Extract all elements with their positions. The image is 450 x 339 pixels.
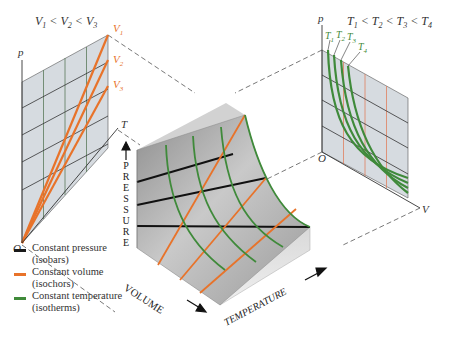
isobar-swatch: [14, 249, 26, 252]
label-t1: T1: [325, 30, 334, 44]
legend-item-isotherms: Constant temperature(isotherms): [14, 290, 122, 314]
isochor-swatch: [14, 273, 26, 276]
legend-label: Constant temperature: [32, 290, 122, 302]
legend-sublabel: (isobars): [32, 254, 107, 266]
left-axis-p-label: p: [18, 46, 24, 58]
left-pt-panel: [22, 35, 118, 243]
right-axis-v-label: V: [422, 203, 429, 215]
pvt-surface: [137, 103, 310, 305]
label-t4: T4: [358, 41, 367, 55]
pressure-axis-label: PRESSURE: [121, 160, 131, 248]
legend-item-isochors: Constant volume(isochors): [14, 266, 122, 290]
right-origin-label: O: [318, 152, 326, 164]
right-axis-p-label: p: [318, 12, 324, 24]
label-t3: T3: [347, 31, 356, 45]
legend-label: Constant pressure: [32, 242, 107, 254]
legend: Constant pressure(isobars) Constant volu…: [14, 242, 122, 314]
legend-sublabel: (isotherms): [32, 302, 122, 314]
right-pv-panel: [322, 25, 420, 208]
isotherm-swatch: [14, 297, 26, 300]
label-t2: T2: [336, 29, 345, 43]
left-panel-title: V1 < V2 < V3: [35, 14, 97, 30]
label-v2: V2: [113, 53, 123, 68]
label-v3: V3: [113, 78, 123, 93]
legend-item-isobars: Constant pressure(isobars): [14, 242, 122, 266]
label-v1: V1: [113, 22, 123, 37]
left-axis-t-label: T: [121, 118, 127, 130]
right-panel-title: T1 < T2 < T3 < T4: [347, 14, 432, 30]
legend-label: Constant volume: [32, 266, 103, 278]
legend-sublabel: (isochors): [32, 278, 103, 290]
